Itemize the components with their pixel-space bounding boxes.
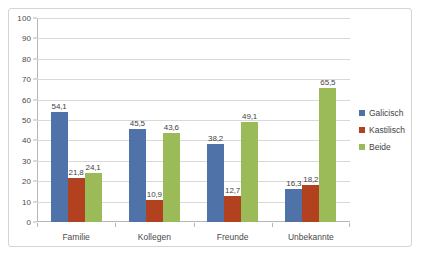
bar-galicisch-freunde[interactable]: 38,2 [207,18,224,222]
legend-item-kastilisch[interactable]: Kastilisch [359,121,415,138]
bar-rect[interactable] [224,196,241,222]
bar-beide-kollegen[interactable]: 43,6 [163,18,180,222]
bar-group: 54,121,824,1 [37,18,115,222]
x-axis-tick-label: Unbekannte [288,232,334,242]
bar-group: 16,318,265,5 [272,18,350,222]
y-axis-tick-label: 40 [22,136,31,145]
bar-rect[interactable] [85,173,102,222]
bar-group: 38,212,749,1 [194,18,272,222]
bar-kastilisch-unbekannte[interactable]: 18,2 [302,18,319,222]
bar-value-label: 24,1 [86,163,101,172]
bar-rect[interactable] [68,178,85,222]
bar-rect[interactable] [207,144,224,222]
bar-rect[interactable] [285,189,302,222]
x-axis-tick-label: Freunde [217,232,249,242]
bar-rect[interactable] [163,133,180,222]
bar-galicisch-kollegen[interactable]: 45,5 [129,18,146,222]
y-axis-tick-label: 30 [22,156,31,165]
y-axis-tick-label: 90 [22,34,31,43]
y-axis-tick-label: 20 [22,177,31,186]
bar-kastilisch-familie[interactable]: 21,8 [68,18,85,222]
y-axis-tick-label: 0 [26,218,31,227]
y-axis-tick-label: 10 [22,197,31,206]
x-axis-tick-mark [194,223,195,227]
x-axis-tick-label: Familie [62,232,89,242]
bar-rect[interactable] [319,88,336,222]
bar-value-label: 18,2 [303,175,318,184]
y-axis-tick-label: 70 [22,75,31,84]
legend-swatch-icon [359,144,365,150]
x-axis-tick-mark [349,223,350,227]
bar-kastilisch-freunde[interactable]: 12,7 [224,18,241,222]
bar-group: 45,510,943,6 [115,18,193,222]
y-axis-tick-label: 80 [22,54,31,63]
bar-rect[interactable] [51,112,68,222]
x-axis-tick-mark [272,223,273,227]
legend-label: Galicisch [369,108,403,118]
bar-value-label: 65,5 [320,78,335,87]
plot-area: 54,121,824,145,510,943,638,212,749,116,3… [37,18,350,222]
y-axis-tick-label: 50 [22,116,31,125]
bar-value-label: 12,7 [225,186,240,195]
bar-value-label: 54,1 [52,102,67,111]
bar-galicisch-familie[interactable]: 54,1 [51,18,68,222]
y-axis-tick-label: 60 [22,95,31,104]
chart-container: 0102030405060708090100 54,121,824,145,51… [0,0,422,262]
x-axis-tick-label: Kollegen [138,232,171,242]
legend-label: Kastilisch [369,125,405,135]
x-axis-tick-mark [115,223,116,227]
chart-legend: GalicischKastilischBeide [359,104,415,155]
y-axis: 0102030405060708090100 [0,18,37,222]
bar-value-label: 38,2 [208,134,223,143]
legend-item-galicisch[interactable]: Galicisch [359,104,415,121]
bar-value-label: 10,9 [147,190,162,199]
y-axis-tick-label: 100 [17,14,31,23]
bar-beide-freunde[interactable]: 49,1 [241,18,258,222]
bar-value-label: 21,8 [69,168,84,177]
legend-item-beide[interactable]: Beide [359,138,415,155]
legend-swatch-icon [359,110,365,116]
bar-value-label: 16,3 [286,179,301,188]
bar-rect[interactable] [241,122,258,222]
bar-value-label: 43,6 [164,123,179,132]
bar-rect[interactable] [146,200,163,222]
bar-rect[interactable] [302,185,319,222]
bar-beide-familie[interactable]: 24,1 [85,18,102,222]
bar-galicisch-unbekannte[interactable]: 16,3 [285,18,302,222]
x-axis: FamilieKollegenFreundeUnbekannte [37,223,350,245]
bar-rect[interactable] [129,129,146,222]
x-axis-tick-mark [37,223,38,227]
legend-label: Beide [369,142,391,152]
bar-kastilisch-kollegen[interactable]: 10,9 [146,18,163,222]
bar-beide-unbekannte[interactable]: 65,5 [319,18,336,222]
bar-value-label: 45,5 [130,119,145,128]
bar-value-label: 49,1 [242,112,257,121]
legend-swatch-icon [359,127,365,133]
